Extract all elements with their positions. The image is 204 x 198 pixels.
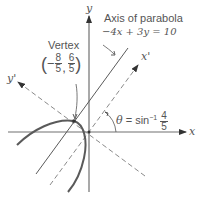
x-prime-axis-label: x' — [141, 51, 150, 62]
vertex-x-sign: − — [47, 56, 55, 71]
x-axis-label: x — [189, 126, 195, 137]
vertex-leader — [75, 84, 77, 117]
y-axis-label: y — [86, 3, 92, 14]
theta-arc — [105, 112, 116, 132]
axis-leader — [103, 45, 114, 54]
vertex-title: Vertex — [48, 40, 79, 51]
axis-of-parabola-equation: −4x + 3y = 10 — [102, 27, 177, 37]
origin-point — [88, 131, 91, 134]
theta-label: θ = sin−1 45 — [116, 111, 168, 132]
parabola-curve — [17, 121, 86, 192]
vertex-point — [72, 119, 76, 123]
y-prime-axis-label: y' — [7, 73, 16, 84]
theta-fraction: 45 — [160, 111, 168, 132]
vertex-coordinates: (−85,65) — [41, 53, 81, 74]
axis-of-parabola-title: Axis of parabola — [104, 13, 183, 24]
